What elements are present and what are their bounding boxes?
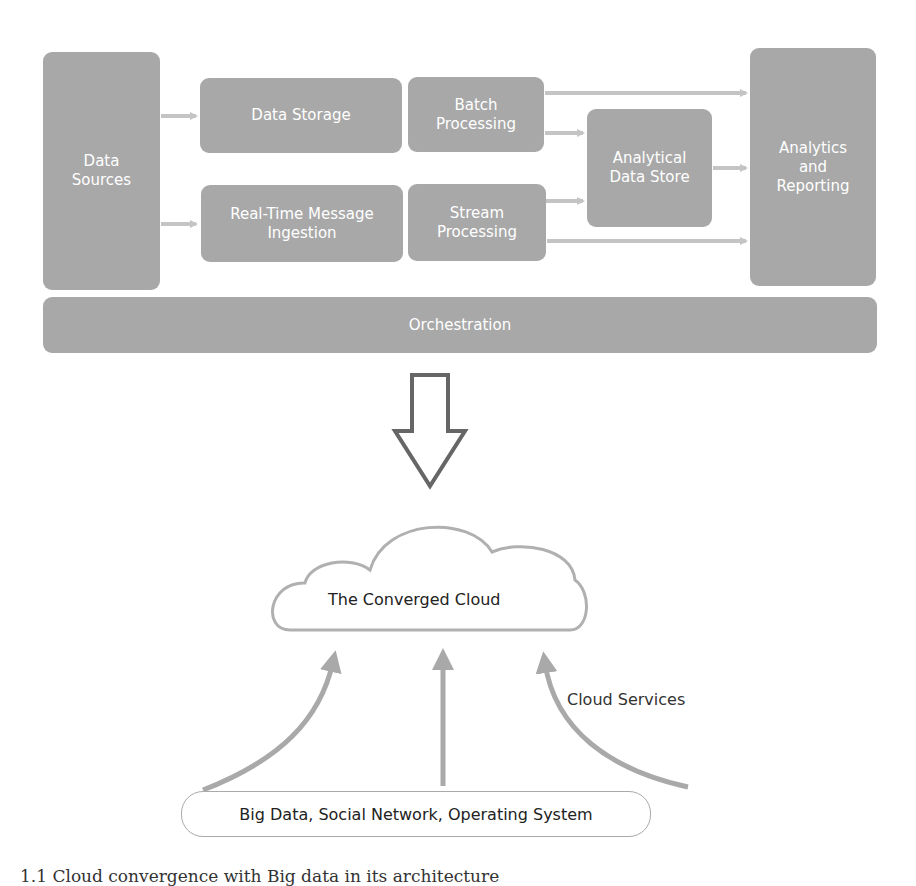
cloud-services-label: Cloud Services xyxy=(567,690,685,709)
cloud-label: The Converged Cloud xyxy=(328,590,501,609)
box-batch-processing: Batch Processing xyxy=(408,77,544,152)
down-arrow-outline-icon xyxy=(395,375,465,486)
box-analytics-reporting: Analytics and Reporting xyxy=(750,48,876,286)
box-realtime-ingestion: Real-Time Message Ingestion xyxy=(201,185,403,262)
box-data-storage: Data Storage xyxy=(200,78,402,153)
cloud-shape xyxy=(272,527,586,630)
curved-arrow-left xyxy=(203,662,333,790)
box-data-sources: Data Sources xyxy=(43,52,160,290)
box-orchestration: Orchestration xyxy=(43,297,877,353)
box-stream-processing: Stream Processing xyxy=(408,184,546,261)
figure-caption: 1.1 Cloud convergence with Big data in i… xyxy=(20,866,499,886)
box-analytical-data-store: Analytical Data Store xyxy=(587,109,712,227)
curved-arrow-right xyxy=(545,663,688,787)
base-platform-pill: Big Data, Social Network, Operating Syst… xyxy=(181,791,651,837)
